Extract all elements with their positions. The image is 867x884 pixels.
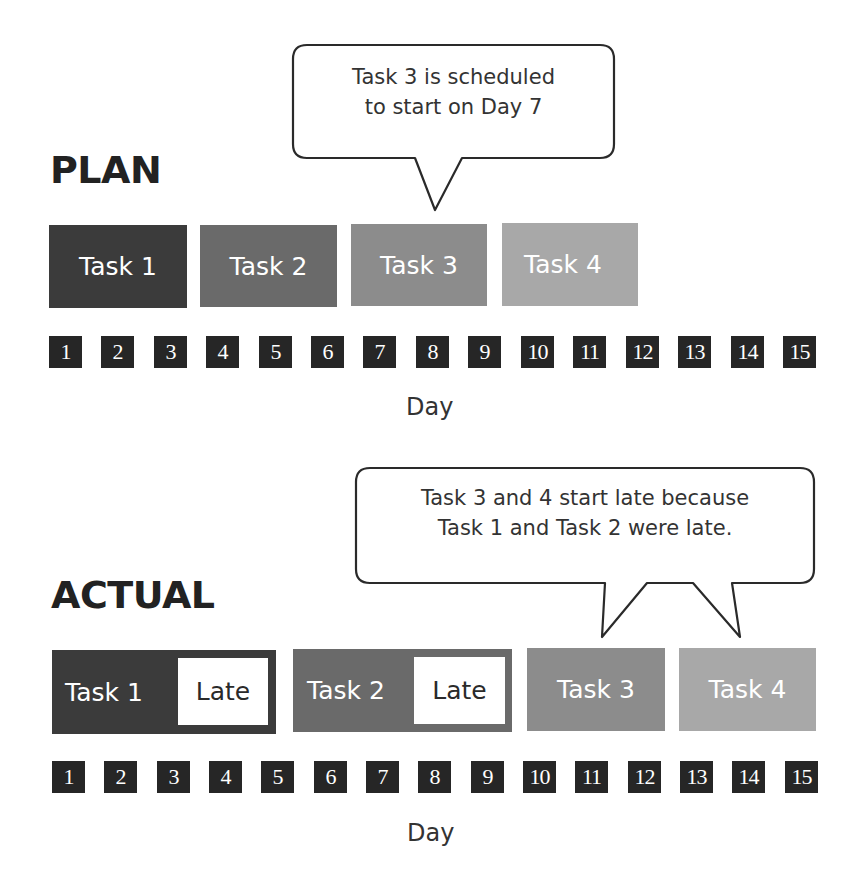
plan-axis-label: Day bbox=[406, 393, 453, 421]
plan-day-4: 4 bbox=[206, 336, 239, 368]
actual-day-9: 9 bbox=[471, 761, 504, 793]
actual-task-1-late-segment: Late bbox=[178, 658, 268, 725]
plan-day-7: 7 bbox=[363, 336, 396, 368]
plan-day-2: 2 bbox=[101, 336, 134, 368]
actual-day-5: 5 bbox=[261, 761, 294, 793]
actual-task-3-bar: Task 3 bbox=[527, 648, 665, 731]
plan-day-14: 14 bbox=[731, 336, 764, 368]
actual-task-4-bar: Task 4 bbox=[679, 648, 816, 731]
actual-day-11: 11 bbox=[575, 761, 608, 793]
actual-task-4-label: Task 4 bbox=[709, 675, 787, 704]
plan-day-5: 5 bbox=[259, 336, 292, 368]
actual-day-1: 1 bbox=[52, 761, 85, 793]
actual-day-2: 2 bbox=[104, 761, 137, 793]
plan-day-1: 1 bbox=[49, 336, 82, 368]
actual-callout-text: Task 3 and 4 start late because Task 1 a… bbox=[356, 483, 814, 543]
plan-day-11: 11 bbox=[573, 336, 606, 368]
plan-task-2-label: Task 2 bbox=[230, 252, 308, 281]
actual-day-3: 3 bbox=[157, 761, 190, 793]
plan-day-10: 10 bbox=[521, 336, 554, 368]
actual-day-6: 6 bbox=[314, 761, 347, 793]
actual-day-8: 8 bbox=[418, 761, 451, 793]
plan-callout-line2: to start on Day 7 bbox=[293, 92, 614, 122]
actual-callout-line2: Task 1 and Task 2 were late. bbox=[356, 513, 814, 543]
actual-task-1-label: Task 1 bbox=[65, 678, 143, 707]
actual-day-13: 13 bbox=[680, 761, 713, 793]
actual-callout-line1: Task 3 and 4 start late because bbox=[356, 483, 814, 513]
callout-shapes bbox=[0, 0, 867, 884]
plan-task-4-label: Task 4 bbox=[524, 250, 602, 279]
actual-task-2-label: Task 2 bbox=[307, 676, 385, 705]
plan-day-9: 9 bbox=[468, 336, 501, 368]
actual-task-2-late-segment: Late bbox=[414, 657, 505, 724]
plan-day-15: 15 bbox=[783, 336, 816, 368]
plan-task-2-bar: Task 2 bbox=[200, 225, 337, 307]
plan-task-1-label: Task 1 bbox=[79, 252, 157, 281]
actual-day-10: 10 bbox=[523, 761, 556, 793]
plan-task-4-bar: Task 4 bbox=[502, 223, 638, 306]
actual-day-15: 15 bbox=[785, 761, 818, 793]
plan-day-13: 13 bbox=[678, 336, 711, 368]
plan-day-12: 12 bbox=[626, 336, 659, 368]
plan-callout-text: Task 3 is scheduled to start on Day 7 bbox=[293, 62, 614, 122]
actual-day-7: 7 bbox=[366, 761, 399, 793]
actual-day-12: 12 bbox=[628, 761, 661, 793]
actual-task-2-bar: Task 2 Late bbox=[293, 649, 512, 732]
plan-day-6: 6 bbox=[311, 336, 344, 368]
actual-task-1-bar: Task 1 Late bbox=[52, 650, 276, 734]
plan-day-8: 8 bbox=[416, 336, 449, 368]
actual-heading: ACTUAL bbox=[51, 576, 215, 614]
plan-day-3: 3 bbox=[154, 336, 187, 368]
actual-task-3-label: Task 3 bbox=[557, 675, 635, 704]
plan-task-1-bar: Task 1 bbox=[49, 225, 187, 308]
actual-task-2-late-label: Late bbox=[432, 676, 486, 705]
plan-callout-line1: Task 3 is scheduled bbox=[293, 62, 614, 92]
plan-task-3-bar: Task 3 bbox=[351, 224, 487, 306]
actual-axis-label: Day bbox=[407, 819, 454, 847]
actual-day-4: 4 bbox=[209, 761, 242, 793]
plan-heading: PLAN bbox=[50, 151, 161, 189]
actual-day-14: 14 bbox=[732, 761, 765, 793]
actual-task-1-late-label: Late bbox=[196, 677, 250, 706]
plan-task-3-label: Task 3 bbox=[380, 251, 458, 280]
